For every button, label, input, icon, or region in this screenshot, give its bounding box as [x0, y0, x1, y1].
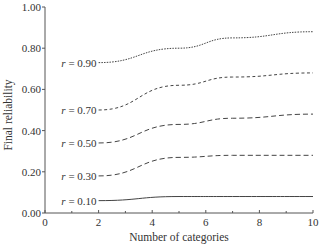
reliability-line-chart: 02468100.000.200.400.600.801.00 r = 0.90… — [0, 0, 321, 246]
x-tick-label: 6 — [203, 216, 209, 228]
series-line — [99, 197, 313, 201]
series-label: r = 0.10 — [61, 195, 97, 207]
series-label: r = 0.90 — [61, 57, 97, 69]
series-line — [99, 155, 313, 176]
y-tick-label: 0.00 — [22, 207, 42, 219]
x-tick-label: 2 — [96, 216, 102, 228]
series-label: r = 0.50 — [61, 137, 97, 149]
y-tick-label: 0.60 — [22, 83, 42, 95]
series-line — [99, 73, 313, 110]
series-label: r = 0.70 — [61, 104, 97, 116]
y-tick-label: 0.20 — [22, 166, 42, 178]
y-axis-label: Final reliability — [2, 79, 15, 150]
x-tick-label: 0 — [42, 216, 48, 228]
y-tick-label: 1.00 — [22, 1, 42, 13]
x-tick-label: 10 — [308, 216, 320, 228]
x-axis-label: Number of categories — [129, 231, 229, 244]
series-line — [99, 32, 313, 63]
series-line — [99, 114, 313, 143]
series-lines — [99, 32, 313, 201]
x-tick-label: 4 — [149, 216, 155, 228]
series-label: r = 0.30 — [61, 170, 97, 182]
y-tick-label: 0.40 — [22, 125, 42, 137]
series-labels: r = 0.90r = 0.70r = 0.50r = 0.30r = 0.10 — [61, 57, 97, 207]
y-tick-label: 0.80 — [22, 42, 42, 54]
x-tick-label: 8 — [257, 216, 263, 228]
